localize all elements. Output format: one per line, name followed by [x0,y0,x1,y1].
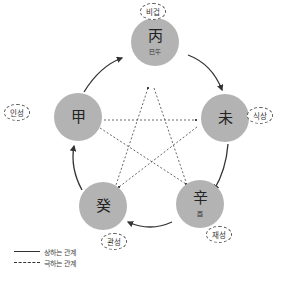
dashed-line-icon [14,262,40,263]
badge-left: 인성 [4,104,30,121]
dash-top-to-bottomright [154,88,186,182]
badge-top: 비겁 [140,3,166,20]
node-char: 甲 [71,110,86,125]
dash-left-to-bottomright [100,128,186,184]
node-char: 丙 [148,29,163,44]
legend-dashed: 극하는 관계 [14,257,76,268]
node-top: 丙 巳午 [131,18,179,66]
legend-solid: 상하는 관계 [14,246,76,257]
solid-line-icon [14,251,40,252]
node-bottom-right: 辛 酉 [176,180,224,228]
badge-bottom-right: 재성 [206,226,232,243]
arrow-bottomright-to-bottomleft [128,222,172,227]
badge-bottom-left: 관성 [101,233,127,250]
legend-dashed-label: 극하는 관계 [44,258,76,268]
node-right: 未 [201,94,249,142]
node-sub: 巳午 [149,47,161,56]
arrow-left-to-top [84,58,122,92]
dash-right-to-bottomleft [119,127,197,187]
legend: 상하는 관계 극하는 관계 [14,246,76,268]
five-elements-diagram: 丙 巳午 비겁 甲 인성 未 식상 辛 酉 재성 癸 관성 상하는 관계 극하는… [0,0,291,286]
node-char: 未 [218,111,233,126]
legend-solid-label: 상하는 관계 [44,247,76,257]
node-char: 辛 [193,191,208,206]
dash-bottomleft-to-top [116,88,148,185]
node-left: 甲 [54,93,102,141]
arrow-top-to-right [188,55,222,90]
badge-right: 식상 [247,107,273,124]
node-char: 癸 [96,199,111,214]
arrow-bottomleft-to-left [73,146,82,190]
arrow-right-to-bottomright [214,144,228,190]
node-bottom-left: 癸 [79,182,127,230]
node-sub: 酉 [197,209,203,218]
